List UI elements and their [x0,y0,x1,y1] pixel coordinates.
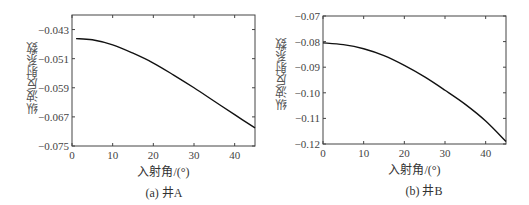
chart-a-xtick-label: 30 [189,149,201,161]
chart-b-ytick-label: −0.09 [295,61,321,73]
chart-b-xlabel: 入射角/(°) [323,160,506,178]
chart-b-ytick-label: −0.07 [295,10,321,22]
chart-a-xtick-label: 40 [229,149,241,161]
chart-b-ytick-label: −0.08 [295,36,321,48]
chart-panel-b: 010203040−0.07−0.08−0.09−0.10−0.11−0.12 … [264,0,528,205]
chart-a-series-line [76,39,255,128]
chart-b-ylabel: 纵波反射系数 [273,38,290,110]
chart-b-axes-frame [323,16,506,144]
chart-b-xtick-label: 10 [358,147,370,159]
chart-b-series-line [323,43,506,142]
chart-b-xtick-label: 30 [440,147,452,159]
chart-a-xtick-label: 10 [107,149,119,161]
chart-b-ytick-label: −0.12 [295,138,320,150]
chart-b-ytick-label: −0.11 [295,112,320,124]
chart-a-caption: (a) 井A [32,183,296,201]
chart-a-ytick-label: −0.059 [38,82,69,94]
chart-a-ytick-label: −0.051 [38,53,69,65]
chart-a-xlabel: 入射角/(°) [72,162,255,180]
chart-a-xtick-label: 20 [148,149,160,161]
chart-b-ytick-label: −0.10 [295,87,321,99]
chart-a-xtick-label: 0 [69,149,75,161]
chart-a-ytick-label: −0.075 [38,140,69,152]
chart-a-ytick-label: −0.067 [38,111,69,123]
chart-b-xtick-label: 40 [480,147,492,159]
chart-panel-a: 010203040−0.043−0.051−0.059−0.067−0.075 … [0,0,264,205]
chart-b-xtick-label: 0 [320,147,326,159]
chart-a-ytick-label: −0.043 [38,24,69,36]
chart-b-caption: (b) 井B [292,181,529,199]
chart-a-ylabel: 纵波反射系数 [24,42,41,114]
chart-b-xtick-label: 20 [399,147,411,159]
chart-a-axes-frame [72,15,255,146]
